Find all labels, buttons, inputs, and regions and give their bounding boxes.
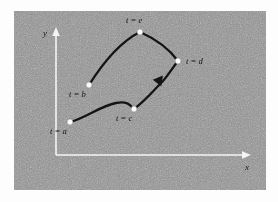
- curve-node-layer: t = at = bt = ct = dt = e: [50, 15, 203, 136]
- curve-node-label-b: t = b: [69, 89, 86, 99]
- diagram-canvas: y x t = at = bt = ct = dt = e: [0, 0, 278, 202]
- curve-node-label-e: t = e: [126, 15, 142, 25]
- curve-node-b: [86, 82, 92, 88]
- curve-node-label-c: t = c: [116, 113, 132, 123]
- x-axis: [56, 151, 251, 159]
- curve-node-a: [67, 119, 73, 125]
- x-axis-arrowhead: [242, 151, 251, 159]
- curve-node-d: [175, 58, 181, 64]
- curve-node-label-a: t = a: [50, 126, 67, 136]
- curve-node-label-d: t = d: [186, 56, 203, 66]
- y-axis-arrowhead: [52, 27, 60, 36]
- curve-node-c: [131, 106, 137, 112]
- x-axis-label: x: [244, 162, 249, 172]
- y-axis-label: y: [42, 28, 47, 38]
- figure-root: y x t = at = bt = ct = dt = e: [0, 0, 278, 202]
- curve-node-e: [137, 29, 143, 35]
